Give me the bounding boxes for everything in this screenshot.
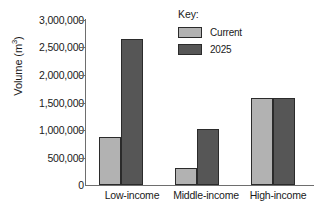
legend: Key: Current 2025 — [178, 8, 288, 59]
y-tick-label-2500000: 2,500,000 — [22, 42, 84, 52]
legend-item-2025: 2025 — [178, 42, 288, 56]
legend-swatch-current — [178, 27, 202, 38]
bar-low-income-2025 — [121, 39, 143, 185]
y-tick-label-1000000: 1,000,000 — [22, 125, 84, 135]
bar-high-income-current — [251, 98, 273, 185]
y-axis-title-suffix: ) — [12, 36, 24, 40]
legend-item-current: Current — [178, 25, 288, 39]
y-tick-label-2000000: 2,000,000 — [22, 70, 84, 80]
y-tick-label-1500000: 1,500,000 — [22, 98, 84, 108]
y-axis-title-exponent: 3 — [10, 40, 19, 44]
bar-middle-income-2025 — [197, 129, 219, 185]
bar-low-income-current — [99, 137, 121, 185]
y-tick-label-500000: 500,000 — [22, 153, 84, 163]
legend-swatch-2025 — [178, 44, 202, 55]
legend-label-current: Current — [210, 27, 242, 38]
y-tick-label-3000000: 3,000,000 — [22, 15, 84, 25]
x-category-label-high-income: High-income — [235, 189, 321, 201]
x-axis-line — [85, 185, 314, 186]
legend-title: Key: — [178, 8, 288, 20]
bar-middle-income-current — [175, 168, 197, 185]
y-tick-label-0: 0 — [22, 180, 84, 190]
legend-label-2025: 2025 — [210, 44, 231, 55]
bar-high-income-2025 — [273, 98, 295, 185]
bar-chart: Volume (m3) 3,000,000 2,500,000 2,000,00… — [0, 0, 322, 214]
